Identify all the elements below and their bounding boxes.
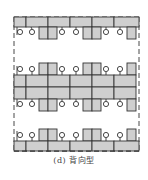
bottom-chairs — [17, 131, 123, 141]
center-double-desk-row — [14, 75, 136, 99]
center-lower-chairs — [17, 99, 123, 107]
top-wall-desk-row — [14, 17, 139, 27]
bottom-wall-desk-row — [14, 141, 139, 151]
office-layout-diagram — [0, 0, 148, 155]
center-upper-chairs — [17, 66, 123, 75]
top-chairs — [17, 27, 123, 35]
figure-caption: (d) 背向型 — [0, 154, 148, 165]
